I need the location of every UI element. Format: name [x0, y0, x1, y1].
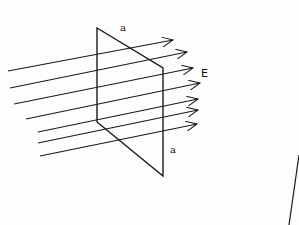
- field-line-arrow: [8, 40, 173, 71]
- field-line-arrow: [26, 83, 200, 119]
- electric-flux-diagram: a a E: [0, 0, 299, 225]
- field-lines: [8, 40, 200, 156]
- field-label-e: E: [201, 67, 208, 80]
- side-label-top: a: [120, 22, 126, 33]
- field-line-arrow: [10, 52, 187, 88]
- stray-edge-line: [289, 155, 299, 225]
- field-line-arrow: [14, 68, 193, 104]
- side-label-right: a: [170, 144, 176, 155]
